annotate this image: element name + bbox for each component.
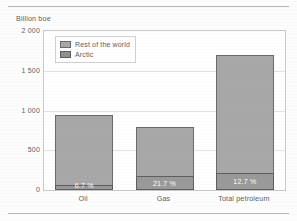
y-axis-tick-label: 500 [0,146,40,153]
light-gray-swatch-icon [60,41,71,48]
scanned-page: Billion boe 05001 0001 5002 000 6.7 %21.… [0,0,297,221]
y-axis-title: Billion boe [16,14,51,23]
bar-oil: 6.7 % [55,115,113,190]
bar-segment-rest-of-the-world [136,127,194,176]
bar-gas: 21.7 % [136,127,194,190]
y-axis-tick-label: 0 [0,186,40,193]
y-axis-tick-label: 1 000 [0,106,40,113]
x-axis-tick-label: Total petroleum [218,194,269,203]
bar-percent-label: 12.7 % [216,178,274,185]
legend-label: Arctic [75,51,93,58]
x-axis-tick-label: Gas [157,194,171,203]
bar-percent-label: 21.7 % [136,180,194,187]
bar-segment-rest-of-the-world [55,115,113,185]
legend-item-arctic: Arctic [60,50,130,59]
y-axis: 05001 0001 5002 000 [0,30,40,191]
chart-legend: Rest of the world Arctic [55,36,136,63]
y-axis-tick-label: 1 500 [0,66,40,73]
page-rule-bottom [8,213,289,214]
bar-segment-rest-of-the-world [216,55,274,173]
legend-item-rest-of-the-world: Rest of the world [60,40,130,49]
dark-gray-swatch-icon [60,51,71,58]
bar-percent-label: 6.7 % [55,182,113,189]
legend-label: Rest of the world [75,41,130,48]
bar-total-petroleum: 12.7 % [216,55,274,190]
x-axis-tick-label: Oil [79,194,88,203]
y-axis-tick-label: 2 000 [0,27,40,34]
page-rule-top [8,6,289,7]
